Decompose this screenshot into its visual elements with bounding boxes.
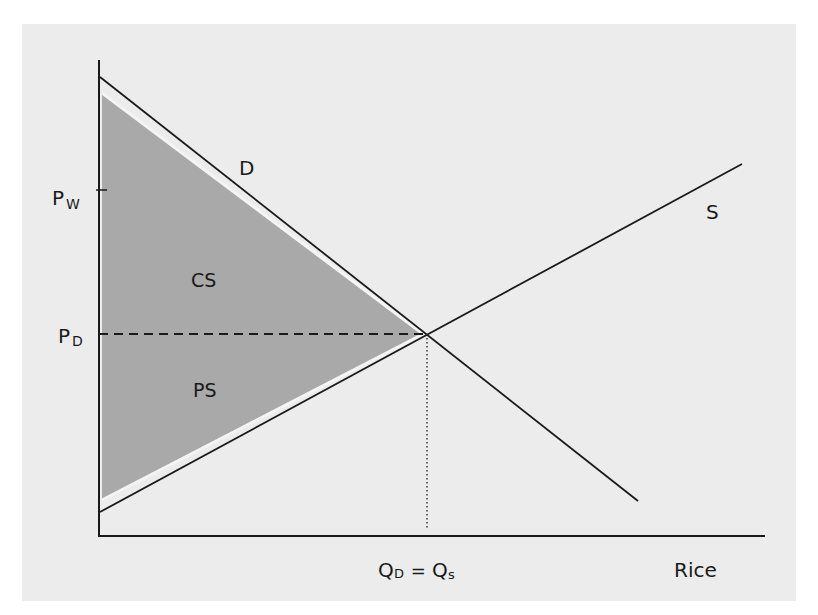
svg-text:=: = xyxy=(405,560,432,581)
ps-label: PS xyxy=(193,379,217,401)
quantity-label: Q D = Q s xyxy=(378,558,455,582)
cs-label: CS xyxy=(191,269,216,291)
pd-label: P D xyxy=(58,324,83,349)
svg-text:Q: Q xyxy=(378,558,394,582)
svg-text:D: D xyxy=(72,333,83,349)
svg-text:Q: Q xyxy=(432,558,448,582)
svg-text:W: W xyxy=(66,196,80,212)
supply-label: S xyxy=(706,200,719,224)
supply-demand-chart: D S CS PS P W P D Q D = Q s Rice xyxy=(0,0,818,615)
svg-text:D: D xyxy=(394,566,404,581)
svg-text:P: P xyxy=(52,186,64,210)
pw-label: P W xyxy=(52,186,80,212)
svg-text:P: P xyxy=(58,324,70,348)
x-axis-label: Rice xyxy=(674,558,717,582)
demand-label: D xyxy=(239,156,254,180)
svg-text:s: s xyxy=(448,567,455,582)
